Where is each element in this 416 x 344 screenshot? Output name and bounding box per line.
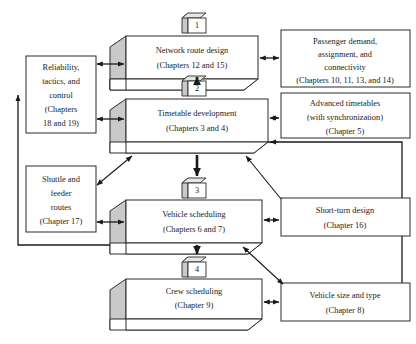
- stage-label-line-2: (Chapters 12 and 15): [157, 61, 228, 70]
- badge-number-2: 2: [195, 84, 199, 93]
- arrow-short-turn-to-timetable: [246, 156, 281, 199]
- stage-vehicle-scheduling[interactable]: Vehicle scheduling (Chapters 6 and 7): [110, 200, 262, 254]
- box-front-face-2: [126, 99, 268, 142]
- arrow-shuttle-to-timetable: [97, 156, 132, 185]
- arrow-vehicle-size-to-vehicle-scheduling: [243, 247, 283, 284]
- box-short-turn-design[interactable]: Short-turn design (Chapter 16): [281, 198, 410, 236]
- box-front-face-3: [126, 200, 262, 243]
- box-bevel-4: [126, 319, 262, 330]
- label-line-2: assignment, and: [318, 50, 373, 59]
- label-line-1: Passenger demand,: [313, 37, 377, 46]
- label-line-2: (Chapter 16): [324, 221, 367, 230]
- badge-3: 3: [182, 178, 206, 198]
- box-shuttle-and-feeder-routes[interactable]: Shuttle and feeder routes (Chapter 17): [26, 166, 96, 232]
- label-line-1: Shuttle and: [42, 175, 81, 184]
- badge-top-face-3: [182, 178, 206, 183]
- label-line-3: control: [49, 91, 73, 100]
- box-advanced-timetables[interactable]: Advanced timetables (with synchronizatio…: [281, 93, 410, 138]
- box-outline: [281, 198, 410, 236]
- label-line-3: (Chapter 5): [326, 127, 365, 136]
- stage-label-line-2: (Chapter 9): [175, 301, 214, 310]
- label-line-2: (with synchronization): [307, 113, 383, 122]
- transit-planning-flowchart: Network route design (Chapters 12 and 15…: [0, 0, 416, 344]
- box-front-face-1: [126, 36, 258, 79]
- box-bevel-3: [126, 243, 262, 254]
- label-line-1: Advanced timetables: [310, 99, 380, 108]
- label-line-4: (Chapters 10, 11, 13, and 14): [296, 76, 394, 85]
- stage-label-line-2: (Chapters 3 and 4): [166, 124, 228, 133]
- label-line-3: connectivity: [324, 63, 366, 72]
- stage-crew-scheduling[interactable]: Crew scheduling (Chapter 9): [110, 279, 262, 330]
- label-line-1: Vehicle size and type: [310, 291, 381, 300]
- label-line-2: (Chapter 8): [326, 306, 365, 315]
- badge-top-face-4: [182, 257, 206, 262]
- box-passenger-demand-assignment-connectivity[interactable]: Passenger demand, assignment, and connec…: [281, 30, 410, 87]
- badge-4: 4: [182, 257, 206, 277]
- stage-label-line-1: Network route design: [156, 46, 229, 55]
- badge-2: 2: [182, 76, 206, 96]
- badge-1: 1: [182, 13, 206, 33]
- box-vehicle-size-and-type[interactable]: Vehicle size and type (Chapter 8): [281, 283, 410, 321]
- stage-label-line-1: Vehicle scheduling: [162, 210, 226, 219]
- badge-number-4: 4: [195, 265, 199, 274]
- label-line-2: tactics, and: [42, 77, 80, 86]
- badge-number-1: 1: [195, 21, 199, 30]
- box-bevel-2: [126, 142, 268, 153]
- label-line-2: feeder: [51, 189, 72, 198]
- label-line-4: (Chapter 17): [40, 217, 83, 226]
- box-reliability-tactics-control[interactable]: Reliability, tactics, and control (Chapt…: [26, 56, 96, 133]
- label-line-1: Reliability,: [43, 63, 80, 72]
- stage-timetable-development[interactable]: Timetable development (Chapters 3 and 4): [110, 99, 268, 153]
- label-line-4: (Chapters: [45, 105, 78, 114]
- label-line-1: Short-turn design: [316, 206, 375, 215]
- badge-number-3: 3: [195, 186, 199, 195]
- label-line-3: routes: [51, 203, 71, 212]
- stage-label-line-1: Crew scheduling: [166, 287, 223, 296]
- box-front-face-4: [126, 279, 262, 319]
- box-outline: [281, 283, 410, 321]
- badge-top-face-1: [182, 13, 206, 18]
- stage-label-line-2: (Chapters 6 and 7): [163, 225, 225, 234]
- label-line-5: 18 and 19): [43, 119, 79, 128]
- stage-label-line-1: Timetable development: [157, 109, 237, 118]
